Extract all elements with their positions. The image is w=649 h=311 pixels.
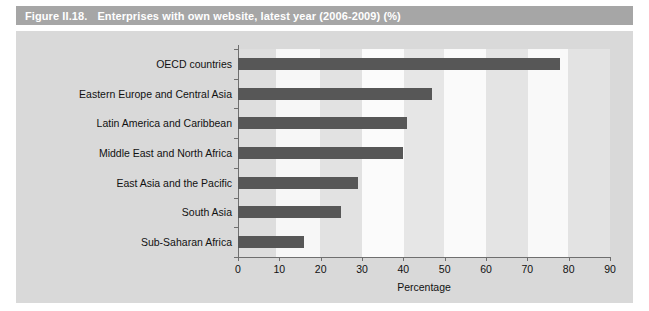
- category-label: Eastern Europe and Central Asia: [79, 88, 232, 100]
- bar-row: Latin America and Caribbean: [238, 108, 407, 138]
- figure-container: Figure II.18. Enterprises with own websi…: [0, 0, 649, 311]
- category-label: OECD countries: [156, 58, 232, 70]
- x-tick: [569, 257, 570, 261]
- x-axis-line: [238, 257, 610, 258]
- y-tick: [234, 198, 238, 199]
- bar: [238, 147, 403, 159]
- x-tick-label: 10: [273, 263, 285, 275]
- category-label: Latin America and Caribbean: [97, 117, 232, 129]
- category-label: Middle East and North Africa: [99, 147, 232, 159]
- x-tick-label: 50: [439, 263, 451, 275]
- y-tick: [234, 138, 238, 139]
- bar: [238, 236, 304, 248]
- category-label: Sub-Saharan Africa: [141, 236, 232, 248]
- x-tick-label: 30: [356, 263, 368, 275]
- x-tick: [486, 257, 487, 261]
- x-tick-label: 90: [604, 263, 616, 275]
- x-tick: [527, 257, 528, 261]
- x-tick-label: 0: [235, 263, 241, 275]
- x-tick: [403, 257, 404, 261]
- bar: [238, 58, 560, 70]
- x-tick-label: 60: [480, 263, 492, 275]
- x-tick: [362, 257, 363, 261]
- bar-row: OECD countries: [238, 49, 560, 79]
- x-tick: [238, 257, 239, 261]
- x-tick-label: 70: [521, 263, 533, 275]
- bar: [238, 177, 358, 189]
- bar-row: Sub-Saharan Africa: [238, 227, 304, 257]
- x-tick: [445, 257, 446, 261]
- bar-row: Middle East and North Africa: [238, 138, 403, 168]
- y-tick: [234, 257, 238, 258]
- figure-number: Figure II.18.: [25, 10, 87, 22]
- x-tick-label: 40: [397, 263, 409, 275]
- bar-row: South Asia: [238, 198, 341, 228]
- y-tick: [234, 49, 238, 50]
- y-tick: [234, 108, 238, 109]
- y-tick: [234, 168, 238, 169]
- x-tick-label: 80: [563, 263, 575, 275]
- y-tick: [234, 227, 238, 228]
- y-tick: [234, 79, 238, 80]
- figure-title-bar: Figure II.18. Enterprises with own websi…: [16, 6, 633, 25]
- bar: [238, 88, 432, 100]
- x-tick: [321, 257, 322, 261]
- bar: [238, 206, 341, 218]
- category-label: East Asia and the Pacific: [116, 177, 232, 189]
- x-axis-title: Percentage: [238, 281, 610, 293]
- figure-caption: Enterprises with own website, latest yea…: [97, 10, 400, 22]
- bar: [238, 117, 407, 129]
- x-tick: [279, 257, 280, 261]
- plot-area: OECD countriesEastern Europe and Central…: [238, 49, 610, 257]
- x-tick-label: 20: [315, 263, 327, 275]
- bar-row: East Asia and the Pacific: [238, 168, 358, 198]
- x-tick: [610, 257, 611, 261]
- chart-panel: OECD countriesEastern Europe and Central…: [16, 31, 633, 303]
- category-label: South Asia: [182, 206, 232, 218]
- bar-row: Eastern Europe and Central Asia: [238, 79, 432, 109]
